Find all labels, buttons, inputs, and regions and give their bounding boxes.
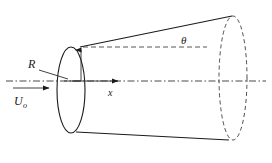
axis-label: x	[107, 87, 113, 98]
radius-label: R	[27, 57, 36, 71]
radius-leader-line	[39, 70, 68, 79]
cone-flow-figure: R U o x θ	[0, 0, 272, 163]
velocity-subscript-label: o	[23, 101, 27, 110]
cone-top-slant-line	[80, 16, 232, 47]
angle-label: θ	[181, 34, 187, 46]
cone-far-end-ellipse	[219, 16, 247, 140]
cone-bottom-slant-line	[76, 132, 229, 140]
cone-diagram: R U o x θ	[0, 0, 272, 163]
